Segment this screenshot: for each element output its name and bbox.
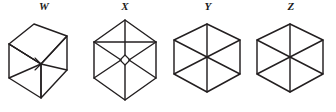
y-bottom-face-left-edge	[174, 57, 207, 74]
w-diagonal-left	[9, 64, 41, 78]
figure-z-drawing	[250, 14, 332, 108]
figure-x: X	[86, 0, 164, 112]
figure-y-drawing	[168, 14, 248, 108]
x-spoke-lower-left	[94, 60, 121, 78]
w-top-face	[9, 24, 67, 64]
y-top-face-left-edge	[174, 40, 207, 57]
x-spoke-lower-right	[129, 60, 156, 78]
figure-w: W	[4, 0, 84, 112]
w-diagonal-right	[41, 64, 67, 70]
x-spoke-upper-left	[94, 42, 121, 60]
figure-x-drawing	[86, 14, 164, 108]
y-top-face-right-edge	[207, 40, 240, 57]
figure-panel: W X	[0, 0, 336, 112]
figure-w-label: W	[4, 0, 84, 13]
figure-w-drawing	[4, 14, 84, 108]
x-spoke-upper-right	[129, 42, 156, 60]
y-bottom-face-right-edge	[207, 57, 240, 74]
figure-z: Z	[250, 0, 332, 112]
figure-x-label: X	[86, 0, 164, 13]
w-diagonal-top	[9, 44, 41, 64]
figure-y-label: Y	[168, 0, 248, 13]
figure-z-label: Z	[250, 0, 332, 13]
figure-y: Y	[168, 0, 248, 112]
